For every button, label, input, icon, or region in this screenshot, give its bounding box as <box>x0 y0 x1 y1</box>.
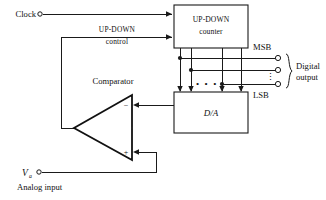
adc-block-diagram: UP-DOWN counter D/A − + Clock UP-DOWN co… <box>0 0 326 200</box>
updown-control-label-line1: UP-DOWN <box>99 25 136 34</box>
analog-input-wire <box>37 149 156 174</box>
digital-output-label-line1: Digital <box>296 61 320 71</box>
comparator-block[interactable]: − + <box>74 95 132 160</box>
output-vertical-ellipsis: ⋮ <box>266 72 275 82</box>
analog-input-caption: Analog input <box>17 182 63 192</box>
counter-label-line1: UP-DOWN <box>193 15 230 24</box>
digital-output-brace-icon <box>286 54 292 88</box>
dac-to-comparator-wire <box>133 102 174 107</box>
junction-dot-msb <box>178 56 182 60</box>
diagram-canvas: UP-DOWN counter D/A − + Clock UP-DOWN co… <box>0 0 326 200</box>
junction-dot-mid <box>189 68 193 72</box>
analog-input-terminal-icon[interactable] <box>37 170 41 174</box>
dac-block[interactable]: D/A <box>174 92 248 133</box>
clock-terminal-icon[interactable] <box>38 12 42 16</box>
comparator-noninverting-sign: + <box>124 148 129 157</box>
output-terminal-mid-icon[interactable] <box>275 67 280 72</box>
analog-input-symbol: V <box>22 168 29 178</box>
comparator-inverting-sign: − <box>124 101 129 110</box>
up-down-counter-block[interactable]: UP-DOWN counter <box>174 5 248 48</box>
output-terminal-lsb-icon[interactable] <box>275 81 280 86</box>
lsb-label: LSB <box>253 90 269 100</box>
digital-output-taps <box>178 56 275 86</box>
counter-label-line2: counter <box>199 27 223 36</box>
clock-wire <box>38 11 172 16</box>
bus-horizontal-ellipsis: • • • <box>196 79 218 89</box>
dac-label: D/A <box>203 108 219 118</box>
comparator-label: Comparator <box>92 76 133 86</box>
updown-control-label-line2: control <box>106 37 128 46</box>
junction-dot-lsb <box>220 82 224 86</box>
digital-output-terminals: ⋮ <box>266 55 281 86</box>
output-terminal-msb-icon[interactable] <box>275 55 280 60</box>
clock-label: Clock <box>15 9 36 19</box>
digital-output-label-line2: output <box>296 72 319 82</box>
msb-label: MSB <box>253 42 271 52</box>
analog-input-subscript: a <box>29 173 32 179</box>
